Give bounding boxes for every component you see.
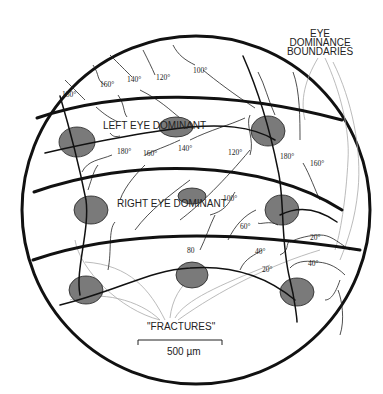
svg-text:140°: 140°	[127, 75, 141, 84]
fracture-blob	[59, 127, 95, 157]
svg-text:180°: 180°	[117, 147, 131, 156]
fracture-blob	[69, 276, 103, 304]
svg-text:100°: 100°	[193, 66, 207, 75]
svg-text:160°: 160°	[100, 80, 114, 89]
fracture-blob	[176, 262, 208, 288]
fractures-label: "FRACTURES"	[147, 321, 216, 332]
svg-text:40°: 40°	[308, 259, 319, 268]
scale-bar-label: 500 µm	[167, 346, 201, 357]
svg-text:80: 80	[187, 246, 195, 255]
svg-text:120°: 120°	[156, 73, 170, 82]
left-eye-dominant-label: LEFT EYE DOMINANT	[103, 120, 206, 131]
scale-bar: 500 µm	[138, 340, 222, 357]
dominance-boundary-1	[37, 97, 342, 120]
svg-text:60°: 60°	[240, 222, 251, 231]
dominance-diagram: 180° 160° 140° 120° 100° 180° 160° 140° …	[0, 0, 383, 394]
svg-text:40°: 40°	[255, 247, 266, 256]
svg-text:140°: 140°	[178, 144, 192, 153]
svg-text:180°: 180°	[280, 152, 294, 161]
svg-text:20°: 20°	[310, 233, 321, 242]
svg-text:20°: 20°	[262, 265, 273, 274]
right-eye-dominant-label: RIGHT EYE DOMINANT	[117, 198, 227, 209]
fracture-blob	[74, 196, 108, 224]
svg-text:160°: 160°	[143, 149, 157, 158]
svg-text:180°: 180°	[62, 90, 76, 99]
svg-text:120°: 120°	[228, 148, 242, 157]
eye-dominance-boundaries-line3: BOUNDARIES	[287, 46, 353, 57]
svg-text:160°: 160°	[310, 159, 324, 168]
